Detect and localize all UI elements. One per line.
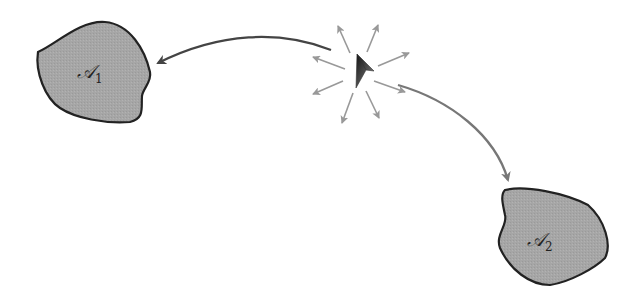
arrow-to-a2 — [398, 85, 508, 180]
arrow-to-a1 — [158, 37, 331, 63]
diagram-canvas — [0, 0, 637, 306]
region-a2 — [499, 188, 608, 285]
agent-cursor-icon — [356, 54, 374, 88]
region-a1-label: 𝒜1 — [77, 60, 103, 86]
region-a2-subscript: 2 — [545, 240, 553, 254]
region-a2-symbol: 𝒜 — [527, 228, 545, 250]
region-a2-label: 𝒜2 — [527, 228, 553, 254]
region-a1-symbol: 𝒜 — [77, 60, 95, 82]
region-a2-shape — [499, 188, 608, 285]
region-a1-subscript: 1 — [95, 72, 103, 86]
